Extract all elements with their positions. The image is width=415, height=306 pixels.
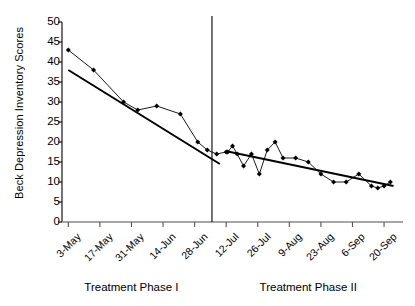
data-point-marker (375, 186, 380, 191)
data-point-marker (154, 104, 159, 109)
data-point-marker (293, 156, 298, 161)
data-point-marker (257, 172, 262, 177)
chart-figure: Beck Depression Inventory Scores 0510152… (0, 0, 415, 306)
trendline-series-3 (228, 152, 394, 186)
data-point-marker (178, 112, 183, 117)
phase-caption-label: Treatment Phase I (61, 281, 201, 293)
trendline-series-1 (68, 70, 220, 164)
phase-caption-label: Treatment Phase II (238, 281, 378, 293)
data-point-marker (344, 180, 349, 185)
plot-area (0, 0, 415, 306)
data-point-marker (331, 180, 336, 185)
data-point-marker (241, 164, 246, 169)
data-point-marker (388, 180, 393, 185)
data-point-marker (281, 156, 286, 161)
data-line-series-0 (68, 50, 226, 154)
data-point-marker (214, 152, 219, 157)
